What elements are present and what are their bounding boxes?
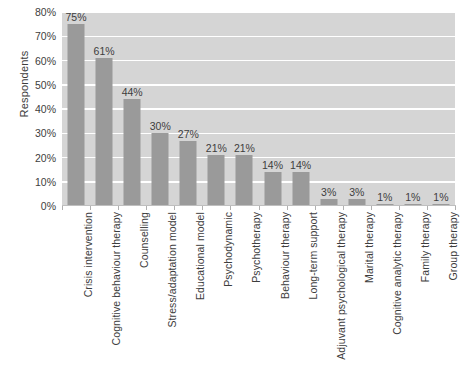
bar[interactable] [236,155,253,206]
x-label-slot: Marital therapy [343,212,371,370]
bar-value-label: 14% [262,159,283,171]
y-axis-tick-label: 60% [14,55,56,67]
x-axis-tick-mark [343,206,344,210]
bar-slot: 1% [371,12,399,206]
x-axis-tick-mark [287,206,288,210]
x-label-slot: Crisis intervention [62,212,90,370]
bar-slot: 1% [399,12,427,206]
x-axis-tick-mark [399,206,400,210]
x-label-slot: Family therapy [399,212,427,370]
x-label-slot: Counselling [118,212,146,370]
y-axis-tick-label: 30% [14,127,56,139]
x-label-slot: Psychodynamic [202,212,230,370]
bar-value-label: 3% [349,186,364,198]
x-axis-tick-mark [62,206,63,210]
bar[interactable] [264,172,281,206]
x-axis-tick-mark [315,206,316,210]
y-axis-tick-label: 80% [14,6,56,18]
y-axis-tick-label: 0% [14,200,56,212]
y-axis-tick-label: 10% [14,176,56,188]
bar-value-label: 1% [405,191,420,203]
bar-slot: 14% [287,12,315,206]
bar[interactable] [152,133,169,206]
plot-area: 75%61%44%30%27%21%21%14%14%3%3%1%1%1% [62,12,455,206]
x-label-slot: Group therapy [427,212,455,370]
bar-slot: 3% [343,12,371,206]
x-axis-tick-mark [146,206,147,210]
bar-slot: 30% [146,12,174,206]
x-axis-category-labels: Crisis interventionCognitive behaviour t… [62,212,455,372]
x-label-slot: Psychotherapy [230,212,258,370]
y-axis-tick-label: 40% [14,103,56,115]
x-axis-tick-mark [455,206,456,210]
bar-value-label: 1% [377,191,392,203]
x-axis-tick-mark [174,206,175,210]
y-axis-tick-mark [57,158,62,159]
bar-slot: 1% [427,12,455,206]
x-label-slot: Cognitive analytic therapy [371,212,399,370]
y-axis-tick-mark [57,12,62,13]
x-axis-tick-mark [427,206,428,210]
bar-slot: 21% [202,12,230,206]
x-axis-tick-mark [90,206,91,210]
bar-value-label: 44% [122,86,143,98]
bar-slot: 21% [230,12,258,206]
x-axis-tick-mark [118,206,119,210]
y-axis-tick-labels: 0%10%20%30%40%50%60%70%80% [14,12,56,206]
bar-value-label: 1% [433,191,448,203]
x-label-slot: Adjuvant psychological therapy [315,212,343,370]
y-axis-tick-mark [57,109,62,110]
x-axis-tick-mark [371,206,372,210]
bar-value-label: 30% [150,120,171,132]
y-axis-tick-mark [57,85,62,86]
y-axis-tick-mark [57,133,62,134]
y-axis-tick-label: 20% [14,152,56,164]
bar-value-label: 21% [206,142,227,154]
bar-slot: 27% [174,12,202,206]
bar-value-label: 3% [321,186,336,198]
bar-value-label: 27% [178,128,199,140]
bar[interactable] [124,99,141,206]
x-label-slot: Stress/adaptation model [146,212,174,370]
bar-value-label: 14% [290,159,311,171]
bar-chart: Respondents 0%10%20%30%40%50%60%70%80% 7… [0,0,462,375]
bar-value-label: 75% [66,11,87,23]
y-axis-tick-label: 70% [14,30,56,42]
y-axis-tick-label: 50% [14,79,56,91]
y-axis-tick-mark [57,61,62,62]
bar-slot: 44% [118,12,146,206]
x-label-slot: Long-term support [287,212,315,370]
bar-slot: 14% [259,12,287,206]
x-label-slot: Educational model [174,212,202,370]
bar[interactable] [180,141,197,206]
bar-value-label: 21% [234,142,255,154]
x-axis-tick-mark [259,206,260,210]
x-axis-category-label: Group therapy [447,212,459,280]
bar[interactable] [292,172,309,206]
bar[interactable] [68,24,85,206]
bar-slot: 3% [315,12,343,206]
x-label-slot: Behaviour therapy [259,212,287,370]
x-axis-tick-mark [202,206,203,210]
bar-slot: 75% [62,12,90,206]
bar-slot: 61% [90,12,118,206]
x-axis-tick-mark [230,206,231,210]
y-axis-tick-mark [57,36,62,37]
bar[interactable] [208,155,225,206]
y-axis-tick-mark [57,182,62,183]
bar-value-label: 61% [94,45,115,57]
bar[interactable] [96,58,113,206]
x-label-slot: Cognitive behaviour therapy [90,212,118,370]
